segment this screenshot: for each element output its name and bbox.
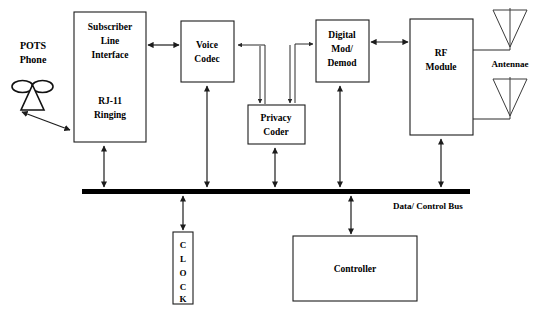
voice-codec-label-line1: Voice <box>196 40 218 50</box>
moddemod-label-line3: Demod <box>327 58 357 68</box>
pots-phone-icon <box>12 81 53 111</box>
sli-label-line4: RJ-11 <box>98 96 122 106</box>
voice-codec-box <box>181 21 234 82</box>
pots-phone-label-group: POTS Phone <box>20 40 47 65</box>
controller-label: Controller <box>334 264 377 274</box>
data-control-bus-label: Data/ Control Bus <box>393 201 463 211</box>
sli-label-line5: Ringing <box>94 110 126 120</box>
rf-module-box <box>410 19 473 135</box>
privacy-coder-label-line1: Privacy <box>260 113 291 123</box>
voice-codec-label-line2: Codec <box>194 54 219 64</box>
block-diagram-canvas: Subscriber Line Interface RJ-11 Ringing … <box>0 0 545 312</box>
antennae-label: Antennae <box>491 59 528 69</box>
moddemod-label-line1: Digital <box>328 30 356 40</box>
pots-label-line1: POTS <box>20 40 47 51</box>
clock-letter-5: K <box>179 294 186 304</box>
path-privacy-to-moddemod <box>295 44 313 103</box>
diagram-svg: Subscriber Line Interface RJ-11 Ringing … <box>0 0 545 312</box>
antenna-lower-icon <box>493 77 527 119</box>
clock-letter-2: L <box>180 254 186 264</box>
clock-letter-3: O <box>179 268 186 278</box>
privacy-coder-label-line2: Coder <box>263 127 289 137</box>
sli-label-line3: Interface <box>92 50 129 60</box>
antenna-upper-icon <box>493 8 527 50</box>
arrow-pots-to-sli <box>22 112 70 130</box>
clock-label-group: C L O C K <box>179 240 186 304</box>
data-control-bus-bar <box>82 189 470 194</box>
digital-mod-demod-label-group: Digital Mod/ Demod <box>327 30 357 68</box>
privacy-coder-box <box>248 105 305 144</box>
sli-label-line2: Line <box>101 36 119 46</box>
clock-letter-4: C <box>180 282 187 292</box>
rf-module-label-line1: RF <box>435 48 448 58</box>
sli-label-line1: Subscriber <box>88 22 133 32</box>
clock-letter-1: C <box>180 240 187 250</box>
pots-label-line2: Phone <box>20 54 47 65</box>
rf-module-label-line2: Module <box>425 62 456 72</box>
moddemod-label-line2: Mod/ <box>331 44 353 54</box>
path-privacy-to-voice-codec <box>238 45 265 104</box>
